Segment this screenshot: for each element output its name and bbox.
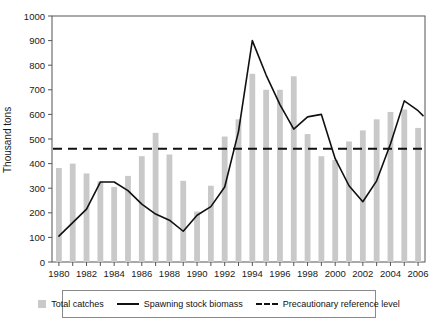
x-axis-tick-label: 2002 bbox=[352, 268, 373, 279]
bar bbox=[111, 187, 117, 262]
bar bbox=[401, 109, 407, 262]
bar bbox=[332, 160, 338, 262]
chart-figure: Thousand tons 01002003004005006007008009… bbox=[0, 0, 439, 326]
y-axis-tick-label: 0 bbox=[40, 257, 45, 268]
bar bbox=[84, 173, 90, 262]
bar bbox=[388, 112, 394, 262]
y-axis-tick-label: 600 bbox=[29, 109, 45, 120]
bar bbox=[153, 133, 159, 262]
x-axis-tick-label: 1994 bbox=[242, 268, 263, 279]
legend-item-total-catches: Total catches bbox=[38, 299, 104, 309]
y-axis-tick-label: 800 bbox=[29, 60, 45, 71]
chart-legend: Total catches Spawning stock biomass Pre… bbox=[62, 290, 376, 318]
dashed-line-icon bbox=[256, 303, 278, 305]
legend-item-spawning-stock-biomass: Spawning stock biomass bbox=[117, 299, 243, 309]
y-axis-tick-label: 1000 bbox=[24, 11, 45, 22]
x-axis-tick-label: 2000 bbox=[325, 268, 346, 279]
x-axis-tick-label: 2004 bbox=[380, 268, 401, 279]
bar bbox=[167, 154, 173, 262]
x-axis-tick-label: 2006 bbox=[408, 268, 429, 279]
y-axis-tick-label: 200 bbox=[29, 207, 45, 218]
bar bbox=[56, 168, 62, 262]
x-axis-tick-label: 1988 bbox=[159, 268, 180, 279]
y-axis-tick-label: 300 bbox=[29, 183, 45, 194]
y-axis-tick-label: 700 bbox=[29, 84, 45, 95]
x-axis-tick-label: 1984 bbox=[104, 268, 125, 279]
bar bbox=[346, 141, 352, 262]
bar bbox=[70, 164, 76, 262]
bar bbox=[291, 76, 297, 262]
bar bbox=[374, 119, 380, 262]
bar bbox=[208, 186, 214, 262]
bar bbox=[180, 181, 186, 262]
x-axis-tick-label: 1992 bbox=[214, 268, 235, 279]
y-axis-tick-label: 500 bbox=[29, 134, 45, 145]
x-axis-tick-label: 1982 bbox=[76, 268, 97, 279]
bar-swatch-icon bbox=[38, 300, 46, 308]
x-axis-tick-label: 1986 bbox=[131, 268, 152, 279]
y-axis-tick-label: 900 bbox=[29, 35, 45, 46]
chart-svg: 0100200300400500600700800900100019801982… bbox=[0, 0, 439, 282]
plot-area: Thousand tons 01002003004005006007008009… bbox=[0, 0, 439, 282]
solid-line-icon bbox=[117, 303, 139, 305]
legend-item-precautionary-reference-level: Precautionary reference level bbox=[256, 299, 400, 309]
bar bbox=[194, 212, 200, 262]
legend-label: Total catches bbox=[51, 299, 104, 309]
bar bbox=[97, 181, 103, 262]
bar bbox=[305, 134, 311, 262]
bar bbox=[360, 130, 366, 262]
bar bbox=[249, 74, 255, 262]
bar bbox=[222, 137, 228, 262]
bar bbox=[263, 90, 269, 262]
legend-label: Precautionary reference level bbox=[283, 299, 400, 309]
bar bbox=[318, 156, 324, 262]
y-axis-tick-label: 100 bbox=[29, 232, 45, 243]
x-axis-tick-label: 1998 bbox=[297, 268, 318, 279]
bar bbox=[139, 156, 145, 262]
x-axis-tick-label: 1996 bbox=[269, 268, 290, 279]
legend-label: Spawning stock biomass bbox=[144, 299, 243, 309]
bar bbox=[277, 90, 283, 262]
y-axis-tick-label: 400 bbox=[29, 158, 45, 169]
x-axis-tick-label: 1980 bbox=[48, 268, 69, 279]
x-axis-tick-label: 1990 bbox=[186, 268, 207, 279]
